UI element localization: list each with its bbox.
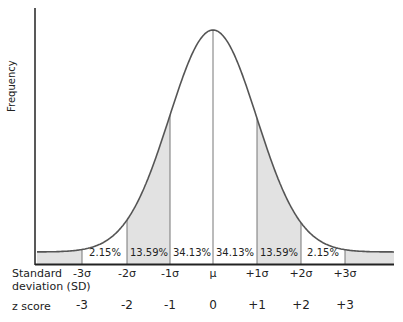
segment-percent: 2.15% xyxy=(89,247,121,258)
z-tick: -2 xyxy=(121,298,133,312)
z-tick: +1 xyxy=(248,298,266,312)
z-tick: 0 xyxy=(209,298,217,312)
sd-tick: +1σ xyxy=(245,267,268,280)
sd-tick: -2σ xyxy=(118,267,136,280)
segment-percent: 34.13% xyxy=(216,247,254,258)
z-tick: -1 xyxy=(164,298,176,312)
sd-row-label-line2: deviation (SD) xyxy=(12,280,91,293)
z-tick: +2 xyxy=(292,298,310,312)
segment-percent: 2.15% xyxy=(307,247,339,258)
y-axis-label: Frequency xyxy=(6,60,17,112)
segment-percent: 13.59% xyxy=(260,247,298,258)
sd-tick: +3σ xyxy=(333,267,356,280)
z-tick: -3 xyxy=(76,298,88,312)
segment-percent: 34.13% xyxy=(173,247,211,258)
segment-percent: 13.59% xyxy=(130,247,168,258)
sd-row-label-line1: Standard xyxy=(12,267,62,280)
sd-tick: -1σ xyxy=(161,267,179,280)
sd-tick: μ xyxy=(210,267,217,280)
minus-2-to-minus-1-sigma-shade xyxy=(127,115,170,264)
bell-curve xyxy=(37,30,394,252)
z-row-label: z score xyxy=(12,300,51,313)
sd-tick: +2σ xyxy=(289,267,312,280)
sd-tick: -3σ xyxy=(73,267,91,280)
z-tick: +3 xyxy=(336,298,354,312)
